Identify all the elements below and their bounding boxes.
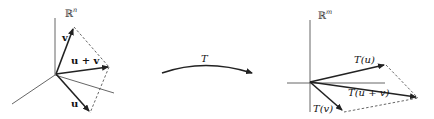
parallelogram-dash-Tv-to-sum: [344, 98, 418, 112]
vector-Tu-label: T(u): [354, 54, 375, 65]
vector-Tu-plus-v-label: T(u + v): [348, 87, 389, 98]
parallelogram-dash-sum-to-u: [90, 67, 109, 113]
codomain-space-exponent: m: [326, 8, 332, 16]
codomain-figure: ℝ m T(u) T(u + v) T(v): [287, 8, 418, 114]
vector-Tv-label: T(v): [313, 103, 333, 114]
vector-Tu-arrow: [310, 65, 384, 82]
transformation-arrow: [162, 66, 252, 74]
vector-u-plus-v-label: u + v: [71, 55, 101, 66]
domain-space-exponent: n: [73, 6, 77, 14]
vector-u-label: u: [71, 98, 78, 109]
vector-u-plus-v-arrow: [56, 67, 108, 74]
transformation-label: T: [201, 53, 209, 64]
domain-figure: ℝ n v u + v u: [12, 6, 114, 113]
mapping-arrow: T: [162, 53, 252, 73]
linear-transformation-diagram: ℝ n v u + v u T ℝ m T(u) T(u + v) T(v): [0, 0, 434, 119]
vector-v-label: v: [61, 32, 69, 43]
domain-depth-axis: [12, 75, 55, 104]
